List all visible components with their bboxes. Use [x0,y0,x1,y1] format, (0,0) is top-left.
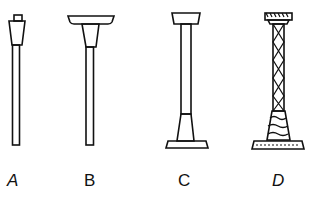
figure-label-b: B [84,171,95,191]
figure-label-d: D [272,171,284,191]
figure-d-column [252,13,304,149]
figure-c-column [166,13,208,148]
figure-label-c: C [178,171,190,191]
figure-label-a: A [7,171,18,191]
figure-a-column [9,15,25,145]
figure-b-column [68,16,114,145]
column-types-diagram [0,0,313,199]
